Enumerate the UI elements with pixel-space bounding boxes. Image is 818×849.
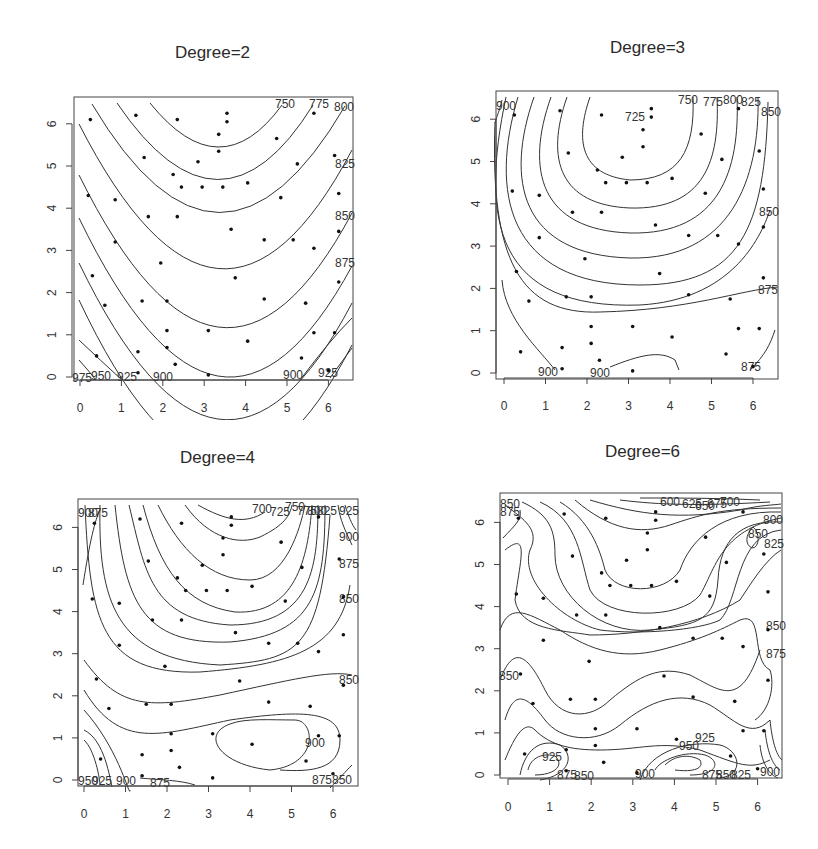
- data-point: [704, 535, 708, 539]
- y-tick-label: 1: [473, 729, 487, 736]
- data-point: [751, 365, 755, 369]
- svg-text:900: 900: [760, 765, 780, 779]
- data-point: [691, 636, 695, 640]
- data-point: [631, 325, 635, 329]
- svg-text:875: 875: [758, 283, 778, 297]
- svg-text:875: 875: [741, 360, 761, 374]
- data-point: [675, 737, 679, 741]
- data-point: [728, 297, 732, 301]
- x-tick-label: 1: [542, 399, 549, 413]
- data-point: [720, 158, 724, 162]
- data-point: [658, 272, 662, 276]
- x-axis: 0123456: [501, 378, 757, 413]
- svg-text:725: 725: [625, 110, 645, 124]
- panel-degree-3: Degree=3 900 725 750 775 800 825 850 850…: [0, 0, 818, 420]
- data-point: [537, 194, 541, 198]
- data-point: [645, 181, 649, 185]
- y-tick-label: 3: [473, 645, 487, 652]
- data-point: [594, 727, 598, 731]
- data-point: [589, 325, 593, 329]
- data-point: [670, 335, 674, 339]
- data-point: [515, 270, 519, 274]
- data-point: [523, 752, 527, 756]
- svg-text:825: 825: [741, 95, 761, 109]
- data-point: [737, 327, 741, 331]
- data-point: [515, 592, 519, 596]
- data-point: [699, 132, 703, 136]
- data-point: [631, 369, 635, 373]
- data-point: [531, 702, 535, 706]
- data-point: [635, 727, 639, 731]
- data-point: [542, 596, 546, 600]
- x-tick-label: 0: [501, 399, 508, 413]
- data-point: [587, 660, 591, 664]
- svg-text:800: 800: [763, 513, 783, 527]
- x-tick-label: 5: [708, 399, 715, 413]
- data-point: [670, 177, 674, 181]
- data-point: [741, 729, 745, 733]
- data-point: [560, 346, 564, 350]
- x-tick-label: 2: [588, 800, 595, 814]
- svg-text:850: 850: [499, 669, 519, 683]
- data-point: [558, 109, 562, 113]
- data-point: [604, 181, 608, 185]
- y-tick-label: 0: [473, 771, 487, 778]
- sample-points: [511, 107, 766, 373]
- data-point: [724, 352, 728, 356]
- data-point: [635, 771, 639, 775]
- svg-text:750: 750: [678, 93, 698, 107]
- x-tick-label: 3: [629, 800, 636, 814]
- y-axis: 0123456: [473, 519, 500, 779]
- data-point: [762, 552, 766, 556]
- svg-text:900: 900: [496, 99, 516, 113]
- data-point: [737, 107, 741, 111]
- svg-text:925: 925: [695, 731, 715, 745]
- data-point: [646, 548, 650, 552]
- y-tick-label: 2: [473, 687, 487, 694]
- data-point: [654, 223, 658, 227]
- data-point: [589, 295, 593, 299]
- panel-degree-6: Degree=6 8: [0, 420, 818, 849]
- y-tick-label: 6: [473, 519, 487, 526]
- svg-text:875: 875: [766, 647, 786, 661]
- data-point: [654, 510, 658, 514]
- svg-text:775: 775: [703, 95, 723, 109]
- data-point: [762, 729, 766, 733]
- svg-text:825: 825: [731, 768, 751, 782]
- data-point: [600, 210, 604, 214]
- data-point: [542, 638, 546, 642]
- data-point: [662, 674, 666, 678]
- data-point: [527, 299, 531, 303]
- data-point: [594, 697, 598, 701]
- data-point: [641, 145, 645, 149]
- svg-text:825: 825: [764, 537, 784, 551]
- y-tick-label: 0: [469, 369, 483, 376]
- data-point: [733, 700, 737, 704]
- data-point: [756, 767, 760, 771]
- svg-text:700: 700: [720, 495, 740, 509]
- data-point: [687, 234, 691, 238]
- y-tick-label: 6: [469, 116, 483, 123]
- data-point: [766, 678, 770, 682]
- data-point: [741, 645, 745, 649]
- data-point: [604, 516, 608, 520]
- data-point: [741, 510, 745, 514]
- y-tick-label: 5: [473, 561, 487, 568]
- data-point: [600, 571, 604, 575]
- data-point: [729, 754, 733, 758]
- contour-plot-degree-6: 850 875 600 625 650 675 700 800 850 825 …: [0, 420, 818, 849]
- data-point: [583, 257, 587, 261]
- data-point: [571, 554, 575, 558]
- data-point: [519, 350, 523, 354]
- data-point: [650, 584, 654, 588]
- y-tick-label: 2: [469, 285, 483, 292]
- data-point: [575, 613, 579, 617]
- data-point: [519, 672, 523, 676]
- data-point: [762, 276, 766, 280]
- data-point: [675, 580, 679, 584]
- data-point: [620, 155, 624, 159]
- x-tick-label: 0: [505, 800, 512, 814]
- x-tick-label: 2: [584, 399, 591, 413]
- data-point: [571, 210, 575, 214]
- data-point: [567, 151, 571, 155]
